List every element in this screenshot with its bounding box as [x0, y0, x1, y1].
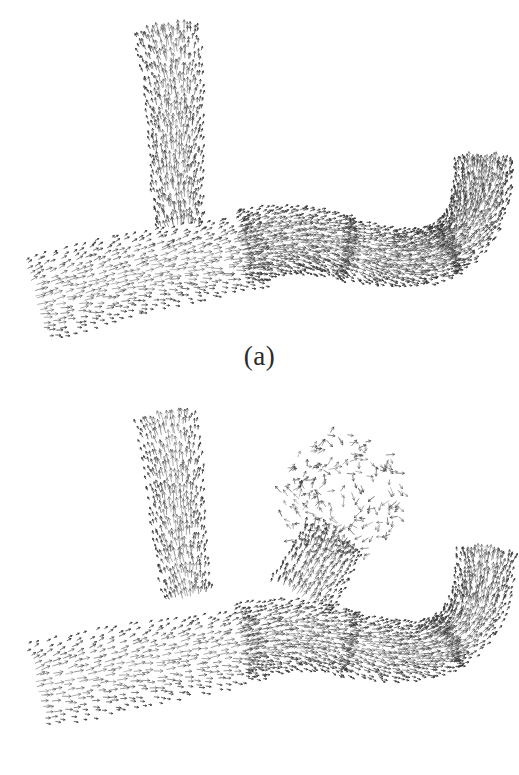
vector-arrow-group [36, 412, 495, 692]
vector-glyph-layer [27, 20, 514, 340]
panel-a: (a) [0, 0, 519, 390]
vector-glyph-layer [27, 408, 517, 725]
vector-arrow-group [32, 413, 513, 724]
panel-caption-a: (a) [0, 343, 519, 370]
vector-arrow-group [37, 22, 512, 337]
vector-arrow-group [37, 23, 499, 318]
vector-arrow-group [31, 20, 504, 324]
vector-field-plot-a [0, 0, 519, 340]
vector-arrow-group [35, 24, 513, 340]
vector-arrow-group [36, 410, 503, 707]
vector-field-plot-b [0, 385, 519, 725]
panel-b: (b) [0, 385, 519, 775]
vector-arrow-group [36, 43, 492, 305]
figure-root: (a) (b) [0, 0, 519, 775]
